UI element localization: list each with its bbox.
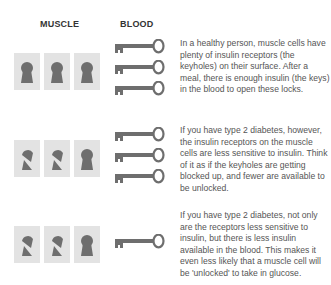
muscle-header: MUSCLE [40,19,79,29]
keyhole-open-icon [14,53,40,90]
muscle-cell-tile [14,140,40,177]
insulin-key-icon [115,234,165,250]
muscle-cell-tile [44,53,70,90]
muscle-cell-tile [14,53,40,90]
insulin-key-icon [115,81,165,97]
keyhole-blocked-icon [44,140,70,177]
keyhole-open-icon [44,53,70,90]
blood-header: BLOOD [120,19,154,29]
row-description: In a healthy person, muscle cells have p… [180,38,330,96]
insulin-key-icon [115,127,165,143]
insulin-key-icon [115,39,165,55]
muscle-cell-tile [44,226,70,263]
row-description: If you have type 2 diabetes, not only ar… [180,210,330,280]
keyhole-open-icon [74,140,100,177]
muscle-cell-tile [14,226,40,263]
keyhole-open-icon [74,226,100,263]
keyhole-blocked-icon [44,226,70,263]
keyhole-blocked-icon [14,226,40,263]
muscle-cell-tile [74,140,100,177]
muscle-cell-tile [44,140,70,177]
row-description: If you have type 2 diabetes, however, th… [180,125,330,195]
insulin-key-icon [115,148,165,164]
muscle-cell-tile [74,53,100,90]
keyhole-open-icon [74,53,100,90]
keyhole-blocked-icon [14,140,40,177]
insulin-key-icon [115,60,165,76]
insulin-key-icon [115,169,165,185]
muscle-cell-tile [74,226,100,263]
